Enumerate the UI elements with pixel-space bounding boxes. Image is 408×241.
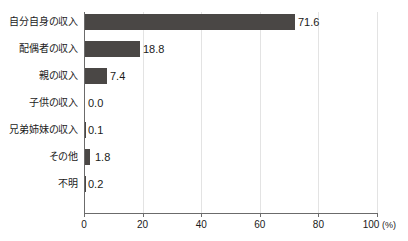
bar-row: 親の収入 7.4 [0, 68, 408, 84]
x-tick-label: 80 [313, 219, 324, 231]
value-label: 0.2 [88, 176, 103, 192]
x-tick [201, 213, 202, 217]
category-label: 親の収入 [0, 68, 78, 84]
bar-row: 自分自身の収入 71.6 [0, 14, 408, 30]
horizontal-bar-chart: 自分自身の収入 71.6 配偶者の収入 18.8 親の収入 7.4 子供の収入 … [0, 0, 408, 241]
value-label: 18.8 [143, 41, 164, 57]
bar-row: 配偶者の収入 18.8 [0, 41, 408, 57]
value-label: 0.0 [88, 95, 103, 111]
bar [85, 14, 295, 30]
x-tick-label: 60 [254, 219, 265, 231]
category-label: 不明 [0, 176, 78, 192]
category-label: 自分自身の収入 [0, 14, 78, 30]
x-tick-label: 100 [363, 219, 380, 231]
value-label: 0.1 [88, 122, 103, 138]
x-axis-line [84, 213, 378, 214]
category-label: 配偶者の収入 [0, 41, 78, 57]
value-label: 71.6 [298, 14, 319, 30]
bar [85, 176, 86, 192]
category-label: 兄弟姉妹の収入 [0, 122, 78, 138]
bar-row: 兄弟姉妹の収入 0.1 [0, 122, 408, 138]
bar [85, 68, 107, 84]
bar [85, 149, 90, 165]
x-tick-label: 20 [137, 219, 148, 231]
value-label: 1.8 [95, 149, 110, 165]
x-tick [318, 213, 319, 217]
x-tick [260, 213, 261, 217]
category-label: 子供の収入 [0, 95, 78, 111]
x-tick [377, 213, 378, 217]
x-axis-unit-label: (%) [382, 219, 396, 231]
bar-row: 子供の収入 0.0 [0, 95, 408, 111]
x-tick [84, 213, 85, 217]
bar [85, 41, 140, 57]
bar-row: 不明 0.2 [0, 176, 408, 192]
x-tick [143, 213, 144, 217]
category-label: その他 [0, 149, 78, 165]
x-tick-label: 40 [196, 219, 207, 231]
bar-row: その他 1.8 [0, 149, 408, 165]
x-tick-label: 0 [81, 219, 87, 231]
value-label: 7.4 [110, 68, 125, 84]
